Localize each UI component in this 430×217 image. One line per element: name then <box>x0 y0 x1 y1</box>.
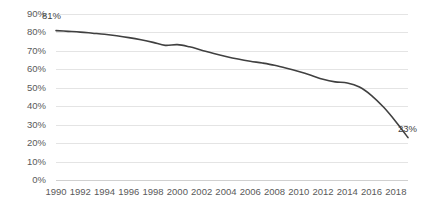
y-tick-label-10: 10% <box>27 157 46 167</box>
x-tick-label-1998: 1998 <box>143 186 164 197</box>
x-tick-label-2004: 2004 <box>215 186 236 197</box>
line-chart: 90%80%70%60%50%40%30%20%10%0% 1990199219… <box>0 0 430 217</box>
y-tick-label-70: 70% <box>27 46 46 56</box>
x-tick-label-2014: 2014 <box>337 186 358 197</box>
y-tick-label-20: 20% <box>27 138 46 148</box>
x-tick-label-2008: 2008 <box>264 186 285 197</box>
y-tick-label-50: 50% <box>27 83 46 93</box>
x-tick-label-1996: 1996 <box>118 186 139 197</box>
x-tick-label-2016: 2016 <box>361 186 382 197</box>
y-tick-label-30: 30% <box>27 120 46 130</box>
y-tick-label-80: 80% <box>27 28 46 38</box>
y-tick-label-60: 60% <box>27 65 46 75</box>
x-tick-label-1990: 1990 <box>45 186 66 197</box>
x-tick-label-2012: 2012 <box>312 186 333 197</box>
data-label-end: 23% <box>398 124 417 134</box>
series-line-1 <box>56 31 408 138</box>
y-tick-label-0: 0% <box>32 175 46 185</box>
x-tick-label-2000: 2000 <box>167 186 188 197</box>
x-tick-label-2002: 2002 <box>191 186 212 197</box>
plot-area <box>56 14 408 180</box>
x-tick-label-2006: 2006 <box>240 186 261 197</box>
x-axis-tick-labels: 1990199219941996199820002002200420062008… <box>56 186 408 206</box>
series-line-group <box>56 14 408 180</box>
x-tick-label-1992: 1992 <box>70 186 91 197</box>
x-tick-label-2010: 2010 <box>288 186 309 197</box>
y-tick-label-40: 40% <box>27 101 46 111</box>
y-axis-tick-labels: 90%80%70%60%50%40%30%20%10%0% <box>0 14 52 180</box>
x-axis-line <box>56 180 408 181</box>
x-tick-label-2018: 2018 <box>385 186 406 197</box>
data-label-start: 81% <box>42 11 61 21</box>
x-tick-label-1994: 1994 <box>94 186 115 197</box>
